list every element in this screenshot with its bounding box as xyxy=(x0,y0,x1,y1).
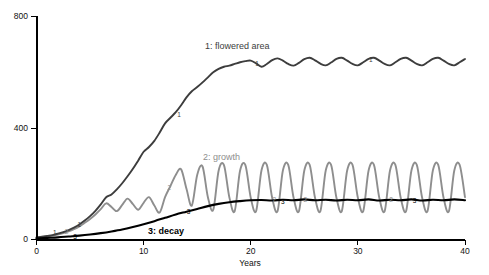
point-marker-3-10: 3 xyxy=(73,232,77,239)
point-marker-2-5: 2 xyxy=(65,227,69,234)
x-tick-10 xyxy=(143,240,144,245)
series-label-flowered-area: 1: flowered area xyxy=(205,41,270,51)
point-marker-2-8: 2 xyxy=(304,196,308,203)
y-tick-0 xyxy=(31,239,36,240)
point-marker-1-2: 1 xyxy=(177,110,181,117)
x-tick-label-40: 40 xyxy=(460,246,469,256)
x-tick-label-20: 20 xyxy=(246,246,255,256)
x-tick-40 xyxy=(465,240,466,245)
x-tick-label-0: 0 xyxy=(34,246,39,256)
x-tick-label-10: 10 xyxy=(139,246,148,256)
y-tick-800 xyxy=(31,16,36,17)
y-tick-400 xyxy=(31,128,36,129)
point-marker-1-3: 1 xyxy=(255,59,259,66)
series-label-decay: 3: decay xyxy=(148,226,184,236)
y-axis-line xyxy=(36,16,38,240)
x-axis-title: Years xyxy=(239,258,260,268)
point-marker-2-9: 2 xyxy=(389,196,393,203)
series-label-growth: 2: growth xyxy=(203,152,240,162)
x-tick-label-30: 30 xyxy=(353,246,362,256)
x-tick-30 xyxy=(357,240,358,245)
point-marker-1-4: 1 xyxy=(369,55,373,62)
x-tick-20 xyxy=(250,240,251,245)
y-tick-label-400: 400 xyxy=(14,123,28,133)
point-marker-2-7: 2 xyxy=(273,195,277,202)
y-tick-label-800: 800 xyxy=(14,11,28,21)
y-tick-label-0: 0 xyxy=(23,234,28,244)
point-marker-1-0: 1 xyxy=(53,229,57,236)
point-marker-3-13: 3 xyxy=(413,197,417,204)
point-marker-3-11: 3 xyxy=(187,208,191,215)
chart-container: 0102030400400800 1: flowered area 2: gro… xyxy=(0,0,489,275)
point-marker-1-1: 1 xyxy=(78,220,82,227)
point-marker-3-12: 3 xyxy=(281,197,285,204)
x-tick-0 xyxy=(36,240,37,245)
point-marker-2-6: 2 xyxy=(168,184,172,191)
